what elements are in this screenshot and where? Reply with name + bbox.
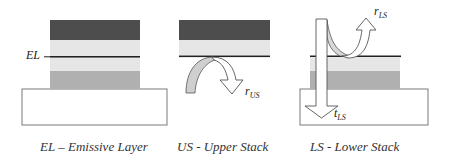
reflection-arrow-us-icon (212, 57, 243, 94)
caption-emissive-layer: EL – Emissive Layer (40, 139, 148, 155)
upper-light-layer (179, 40, 270, 55)
upper-dark-layer (50, 20, 140, 40)
panel-emissive-layer (22, 20, 167, 125)
emission-arc-icon (186, 57, 218, 93)
lower-gray-layer (50, 71, 140, 89)
panel-upper-stack (179, 20, 270, 94)
emissive-layer-line (50, 56, 140, 58)
reflection-arrow-ls-icon (342, 18, 376, 58)
t-ls-sub: LS (337, 113, 345, 122)
t-ls-label: tLS (334, 106, 346, 122)
upper-light-layer (50, 40, 140, 56)
substrate (22, 89, 167, 125)
lower-light-layer (50, 58, 140, 71)
caption-upper-stack: US - Upper Stack (177, 139, 268, 155)
caption-lower-stack: LS - Lower Stack (310, 139, 399, 155)
upper-dark-layer (179, 20, 270, 40)
el-side-label: EL (26, 48, 40, 63)
emissive-layer-line (179, 56, 270, 58)
r-us-label: rUS (245, 84, 259, 100)
r-ls-sub: LS (379, 11, 387, 20)
r-ls-label: rLS (374, 4, 387, 20)
r-us-sub: US (250, 91, 260, 100)
panel-lower-stack (300, 18, 428, 125)
emission-curve-icon (327, 20, 350, 56)
